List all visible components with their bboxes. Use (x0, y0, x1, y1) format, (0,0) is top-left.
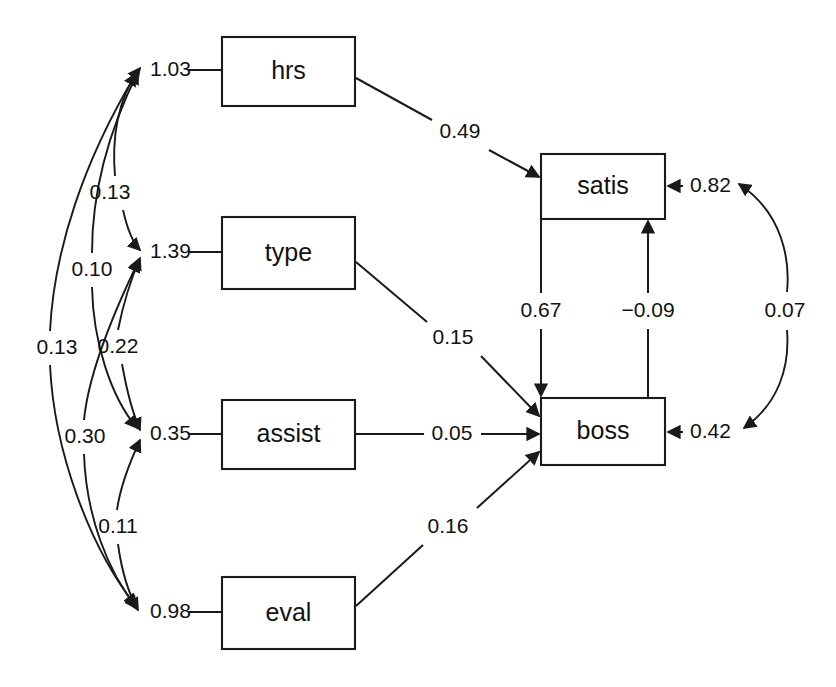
node-hrs[interactable]: hrs (222, 37, 355, 106)
cov-err-upper (739, 184, 788, 292)
node-satis[interactable]: satis (541, 154, 665, 219)
cov-label-type-assist: 0.22 (98, 334, 139, 357)
variance-label-type: 1.39 (150, 239, 191, 262)
path-type-boss-seg1 (356, 262, 427, 322)
path-label-eval-boss: 0.16 (428, 514, 469, 537)
variance-label-hrs: 1.03 (150, 57, 191, 80)
path-hrs-satis-seg2 (489, 150, 539, 177)
path-eval-boss-seg2 (477, 452, 539, 508)
cov-label-hrs-type: 0.13 (90, 180, 131, 203)
path-label-hrs-satis: 0.49 (440, 119, 481, 142)
node-boss[interactable]: boss (541, 398, 665, 465)
path-label-type-boss: 0.15 (433, 325, 474, 348)
path-type-boss-seg2 (481, 356, 539, 416)
node-boss-label: boss (577, 416, 630, 444)
error-label-boss: 0.42 (690, 419, 731, 442)
cov-label-type-eval: 0.30 (65, 424, 106, 447)
cov-label-hrs-eval: 0.13 (37, 335, 78, 358)
node-eval-label: eval (266, 598, 312, 626)
cov-label-errors: 0.07 (765, 298, 806, 321)
path-eval-boss-seg1 (356, 545, 423, 606)
cov-assist-eval-upper (117, 440, 140, 510)
covariance-hrs-assist (92, 72, 138, 428)
node-type-label: type (265, 238, 312, 266)
node-assist-label: assist (257, 419, 321, 447)
path-label-satis-boss: 0.67 (521, 298, 562, 321)
node-assist[interactable]: assist (222, 400, 355, 469)
path-hrs-satis-seg1 (356, 78, 432, 120)
node-type[interactable]: type (222, 217, 355, 289)
cov-hrs-type-lower (123, 210, 140, 250)
node-satis-label: satis (577, 171, 628, 199)
sem-path-diagram: hrs type assist eval satis boss 1.03 1.3… (0, 0, 836, 687)
path-label-boss-satis: −0.09 (621, 298, 674, 321)
cov-assist-eval-lower (118, 544, 138, 610)
variance-connectors (188, 70, 222, 612)
cov-err-lower (744, 330, 787, 428)
cov-hrs-type-upper (114, 68, 140, 176)
error-label-satis: 0.82 (690, 173, 731, 196)
variance-label-eval: 0.98 (150, 599, 191, 622)
node-hrs-label: hrs (271, 56, 306, 84)
cov-type-assist-upper (118, 258, 140, 330)
path-label-assist-boss: 0.05 (432, 421, 473, 444)
variance-label-assist: 0.35 (150, 421, 191, 444)
node-eval[interactable]: eval (222, 577, 355, 649)
cov-label-assist-eval: 0.11 (98, 514, 137, 537)
cov-label-hrs-assist: 0.10 (72, 257, 113, 280)
diagram-canvas: hrs type assist eval satis boss 1.03 1.3… (0, 0, 836, 687)
